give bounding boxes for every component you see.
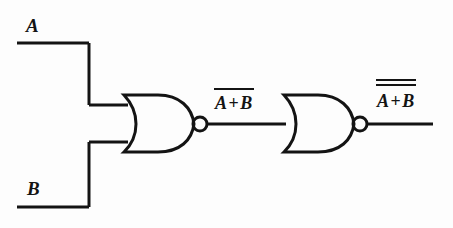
output-operand-right: B	[402, 91, 415, 111]
input-label-b: B	[27, 179, 40, 198]
circuit-svg	[0, 0, 453, 228]
gate-1-body	[124, 95, 194, 152]
output-double-overbar-group: A+B	[377, 90, 415, 110]
intermediate-operand-right: B	[240, 93, 253, 113]
intermediate-overbar-group: A+B	[215, 92, 253, 112]
logic-diagram: A B A+B A+B	[0, 0, 453, 228]
intermediate-operand-left: A	[215, 93, 228, 113]
intermediate-operator: +	[228, 93, 241, 113]
gate-2-body	[284, 95, 354, 152]
output-operand-left: A	[377, 91, 390, 111]
input-label-a: A	[26, 16, 39, 35]
output-signal-label: A+B	[377, 90, 415, 110]
intermediate-signal-label: A+B	[215, 92, 253, 112]
output-operator: +	[390, 91, 403, 111]
